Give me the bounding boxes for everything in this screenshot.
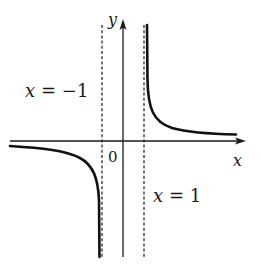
asymptote-right-eq: = 1 xyxy=(169,185,201,206)
asymptote-left-var: x xyxy=(25,80,35,101)
y-axis xyxy=(120,19,127,257)
curve-right-branch xyxy=(147,25,236,135)
x-axis xyxy=(10,138,246,145)
y-axis-label: y xyxy=(107,10,118,29)
asymptote-left-eq: = −1 xyxy=(41,80,88,101)
asymptote-left-label: x = −1 xyxy=(25,80,88,101)
function-graph: y x 0 x = −1 x = 1 xyxy=(0,0,262,268)
asymptote-right-label: x = 1 xyxy=(153,185,201,206)
x-axis-label: x xyxy=(233,151,242,170)
curve-left-branch xyxy=(10,146,100,257)
asymptote-right-var: x xyxy=(153,185,163,206)
origin-label: 0 xyxy=(108,148,118,166)
